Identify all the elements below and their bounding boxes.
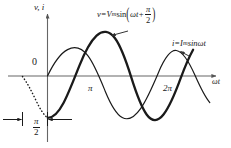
waveform-figure: v, i 0 π 2π ωt v=Vmsin(ωt+ π 2 ) i=Imsin… [0,0,231,148]
phase-shift-label: π 2 [32,117,41,137]
voltage-leader-line [112,31,129,36]
current-equation-label: i=Imsinωt [172,39,206,48]
current-equation-lhs: i=I [172,39,183,48]
phase-shift-fraction: π 2 [33,117,40,137]
origin-label: 0 [32,57,37,67]
x-axis-label: ωt [212,78,220,86]
voltage-close-paren: ) [153,8,156,20]
voltage-equation-argument: ωt+ [130,10,144,19]
voltage-phase-numerator: π [145,5,151,15]
voltage-equation-function: sin [116,10,126,19]
x-tick-pi: π [88,84,93,93]
voltage-open-paren: ( [127,8,130,20]
y-axis-label: v, i [34,3,44,12]
voltage-equation-label: v=Vmsin(ωt+ π 2 ) [97,5,156,24]
voltage-equation-lhs: v=V [97,10,112,19]
current-equation-rhs: sinωt [188,39,206,48]
phase-shift-numerator: π [33,117,40,128]
voltage-dashed-extension [23,77,48,118]
x-tick-2pi: 2π [163,84,172,93]
phase-shift-denominator: 2 [33,128,40,138]
voltage-phase-denominator: 2 [145,15,151,24]
voltage-phase-fraction: π 2 [145,5,151,24]
